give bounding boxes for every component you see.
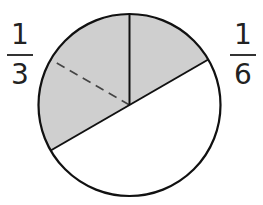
- fraction-label-one-sixth: 1 6: [228, 20, 258, 90]
- sector-one-sixth: [130, 14, 209, 105]
- fraction-bar: [230, 54, 256, 56]
- fraction-bar: [7, 54, 33, 56]
- fraction-circle-diagram: [0, 0, 263, 205]
- denominator: 3: [5, 60, 35, 90]
- sector-one-third: [39, 14, 130, 151]
- numerator: 1: [5, 20, 35, 50]
- fraction-label-one-third: 1 3: [5, 20, 35, 90]
- denominator: 6: [228, 60, 258, 90]
- numerator: 1: [228, 20, 258, 50]
